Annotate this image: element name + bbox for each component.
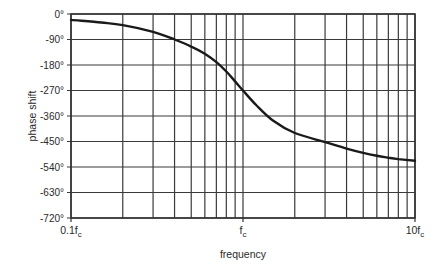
y-tick-label: -720° <box>40 213 64 224</box>
y-tick-label: -360° <box>40 111 64 122</box>
y-tick-label: -630° <box>40 187 64 198</box>
chart-canvas: 0°-90°-180°-270°-360°-450°-540°-630°-720… <box>0 0 438 267</box>
y-tick-label: -90° <box>46 34 64 45</box>
x-axis-ticks: 0.1fcfc10fc <box>60 218 424 239</box>
y-axis-label: phase shift <box>26 91 38 142</box>
x-tick-label: fc <box>240 224 247 239</box>
x-tick-label: 10fc <box>406 224 425 239</box>
y-axis-ticks: 0°-90°-180°-270°-360°-450°-540°-630°-720… <box>40 9 64 224</box>
y-tick-label: -540° <box>40 162 64 173</box>
y-tick-label: -450° <box>40 136 64 147</box>
y-tick-label: 0° <box>54 9 64 20</box>
x-tick-label: 0.1fc <box>60 224 82 239</box>
x-axis-label: frequency <box>220 248 267 260</box>
y-tick-label: -180° <box>40 60 64 71</box>
y-tick-label: -270° <box>40 85 64 96</box>
phase-shift-chart: 0°-90°-180°-270°-360°-450°-540°-630°-720… <box>0 0 438 267</box>
